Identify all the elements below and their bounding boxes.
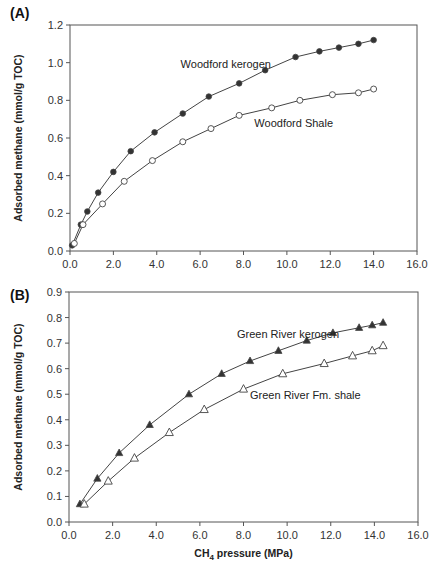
x-tick-label: 6.0 [192,529,207,541]
data-point-filled-circle [293,54,299,60]
data-point-filled-circle [180,111,186,117]
data-point-filled-circle [111,169,117,175]
y-tick-label: 0.1 [47,490,62,502]
data-point-filled-circle [317,49,323,55]
x-tick-label: 2.0 [105,529,120,541]
series-green-river-kerogen: Green River kerogen [76,319,386,507]
series-line [74,89,373,243]
data-point-filled-triangle [146,421,153,428]
x-tick-label: 2.0 [106,258,121,270]
y-tick-label: 0.6 [47,363,62,375]
x-tick-label: 14.0 [363,258,384,270]
data-point-open-circle [71,240,77,246]
data-point-open-circle [297,97,303,103]
panel-label: (A) [10,5,29,21]
data-point-open-triangle [379,341,387,349]
x-tick-label: 8.0 [236,529,251,541]
series-label: Green River kerogen [237,328,339,340]
y-axis-title: Adsorbed methane (mmol/g TOC) [12,323,24,490]
x-tick-label: 10.0 [276,529,297,541]
data-point-open-triangle [368,346,376,354]
data-point-filled-circle [128,148,134,154]
series-woodford-kerogen: Woodford kerogen [69,37,376,248]
data-point-filled-circle [206,94,212,100]
x-tick-label: 4.0 [149,258,164,270]
x-tick-label: 10.0 [276,258,297,270]
data-point-open-circle [149,158,155,164]
y-tick-label: 0.9 [47,286,62,298]
data-point-open-circle [371,86,377,92]
data-point-open-circle [269,105,275,111]
data-point-filled-triangle [380,319,387,326]
data-point-filled-circle [85,209,91,215]
x-tick-label: 16.0 [407,529,428,541]
x-tick-label: 16.0 [406,258,427,270]
y-axis-title: Adsorbed methane (mmol/g TOC) [12,54,24,221]
series-woodford-shale: Woodford Shale [71,86,376,246]
x-tick-label: 0.0 [61,529,76,541]
y-tick-label: 0.4 [48,170,63,182]
data-point-open-circle [355,90,361,96]
data-point-open-triangle [130,454,138,462]
data-point-filled-triangle [185,390,192,397]
series-green-river-fm-shale: Green River Fm. shale [80,341,387,507]
data-point-open-circle [121,178,127,184]
x-axis-title: CH4 pressure (MPa) [194,547,292,562]
chart-a: 0.02.04.06.08.010.012.014.016.00.00.20.4… [10,5,428,270]
x-tick-label: 12.0 [320,529,341,541]
x-tick-label: 8.0 [236,258,251,270]
y-tick-label: 1.0 [48,57,63,69]
series-line [84,346,383,504]
y-tick-label: 0.0 [47,516,62,528]
data-point-filled-circle [152,130,158,136]
x-tick-label: 6.0 [192,258,207,270]
data-point-open-triangle [104,477,112,485]
data-point-open-circle [329,92,335,98]
x-tick-label: 12.0 [320,258,341,270]
data-point-open-circle [180,139,186,145]
series-line [80,323,383,504]
y-tick-label: 0.0 [48,245,63,257]
y-tick-label: 0.8 [48,94,63,106]
figure: 0.02.04.06.08.010.012.014.016.00.00.20.4… [0,0,444,569]
y-tick-label: 0.2 [48,207,63,219]
y-tick-label: 0.7 [47,337,62,349]
data-point-open-circle [100,201,106,207]
data-point-open-triangle [200,405,208,413]
chart-b: 0.02.04.06.08.010.012.014.016.00.00.10.2… [10,286,429,562]
data-point-open-circle [236,112,242,118]
y-tick-label: 0.8 [47,312,62,324]
data-point-filled-circle [336,45,342,51]
data-point-filled-circle [236,81,242,87]
data-point-open-circle [208,126,214,132]
series-label: Woodford kerogen [181,58,271,70]
data-point-filled-circle [371,37,377,43]
y-tick-label: 0.5 [47,388,62,400]
x-tick-label: 0.0 [62,258,77,270]
x-tick-label: 14.0 [364,529,385,541]
x-tick-label: 4.0 [149,529,164,541]
y-tick-label: 1.2 [48,19,63,31]
series-label: Green River Fm. shale [250,389,361,401]
y-tick-label: 0.2 [47,465,62,477]
data-point-open-triangle [165,428,173,436]
y-tick-label: 0.6 [48,132,63,144]
data-point-filled-circle [356,41,362,47]
data-point-filled-circle [95,190,101,196]
series-line [72,40,373,245]
y-tick-label: 0.4 [47,414,62,426]
panel-label: (B) [10,287,29,303]
y-tick-label: 0.3 [47,439,62,451]
data-point-open-circle [80,222,86,228]
series-label: Woodford Shale [254,117,333,129]
data-point-filled-triangle [116,449,123,456]
